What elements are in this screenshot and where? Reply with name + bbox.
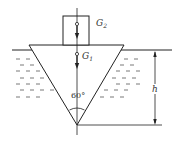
depth-arrow-top <box>153 51 156 57</box>
label-angle: 60° <box>71 91 85 100</box>
buoyancy-diagram: G2 G1 60° h <box>0 0 175 145</box>
block-g2 <box>63 16 89 45</box>
g1-point <box>75 52 78 55</box>
g2-point <box>75 22 78 25</box>
depth-arrow-bottom <box>153 119 156 125</box>
label-depth: h <box>152 84 158 94</box>
label-g2: G2 <box>96 18 107 29</box>
